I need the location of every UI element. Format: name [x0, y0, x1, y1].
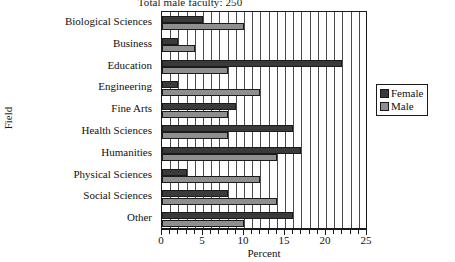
- bar-female: [162, 103, 236, 110]
- grid-line: [269, 12, 270, 228]
- x-axis-tick-label: 20: [320, 234, 331, 246]
- x-axis-tick-label: 25: [361, 234, 372, 246]
- bar-female: [162, 169, 187, 176]
- y-axis-tick-label: Engineering: [0, 81, 152, 92]
- grid-line: [252, 12, 253, 228]
- x-axis-tick-label: 0: [158, 234, 164, 246]
- grid-line: [351, 12, 352, 228]
- bar-male: [162, 154, 277, 161]
- bar-male: [162, 45, 195, 52]
- legend-swatch-male: [380, 102, 389, 111]
- x-axis-tick-label: 15: [279, 234, 290, 246]
- chart-title: Total male faculty: 250: [0, 0, 380, 8]
- legend-item: Female: [380, 87, 423, 100]
- bar-female: [162, 16, 203, 23]
- plot-area: [161, 11, 367, 229]
- y-axis-tick-label: Physical Sciences: [0, 169, 152, 180]
- legend-item: Male: [380, 100, 423, 113]
- y-axis-tick-label: Health Sciences: [0, 125, 152, 136]
- bar-male: [162, 111, 228, 118]
- legend-label: Female: [391, 88, 423, 99]
- bar-male: [162, 89, 260, 96]
- y-axis-tick-labels: Biological SciencesBusinessEducationEngi…: [2, 11, 156, 229]
- y-axis-tick-label: Business: [0, 38, 152, 49]
- grid-line: [236, 12, 237, 228]
- bar-female: [162, 190, 228, 197]
- grid-line: [285, 12, 286, 228]
- grid-line: [301, 12, 302, 228]
- x-axis-tick-label: 5: [199, 234, 205, 246]
- bar-female: [162, 125, 293, 132]
- grid-line: [326, 12, 327, 228]
- grid-line: [228, 12, 229, 228]
- bar-male: [162, 198, 277, 205]
- grid-line: [310, 12, 311, 228]
- x-axis-tick-label: 10: [238, 234, 249, 246]
- bar-female: [162, 147, 301, 154]
- x-axis-title: Percent: [161, 247, 367, 259]
- y-axis-tick-label: Fine Arts: [0, 103, 152, 114]
- legend: FemaleMale: [376, 84, 428, 116]
- bar-male: [162, 67, 228, 74]
- grid-line: [334, 12, 335, 228]
- grid-line: [318, 12, 319, 228]
- grid-line: [293, 12, 294, 228]
- grid-line: [244, 12, 245, 228]
- legend-label: Male: [391, 101, 414, 112]
- x-axis-tick-labels: 0510152025: [161, 234, 367, 248]
- legend-swatch-female: [380, 89, 389, 98]
- y-axis-tick-label: Education: [0, 60, 152, 71]
- bar-male: [162, 23, 244, 30]
- chart-canvas: Total male faculty: 250 Field Biological…: [0, 0, 455, 262]
- y-axis-tick-label: Humanities: [0, 147, 152, 158]
- x-axis-line: [161, 229, 367, 230]
- y-axis-tick-label: Social Sciences: [0, 190, 152, 201]
- bar-female: [162, 212, 293, 219]
- bar-male: [162, 220, 244, 227]
- y-axis-tick-label: Biological Sciences: [0, 16, 152, 27]
- y-axis-tick-label: Other: [0, 212, 152, 223]
- grid-line: [277, 12, 278, 228]
- grid-line: [359, 12, 360, 228]
- bar-female: [162, 60, 342, 67]
- grid-line: [260, 12, 261, 228]
- bar-female: [162, 38, 178, 45]
- bar-male: [162, 132, 228, 139]
- bar-female: [162, 81, 178, 88]
- bar-male: [162, 176, 260, 183]
- grid-line: [342, 12, 343, 228]
